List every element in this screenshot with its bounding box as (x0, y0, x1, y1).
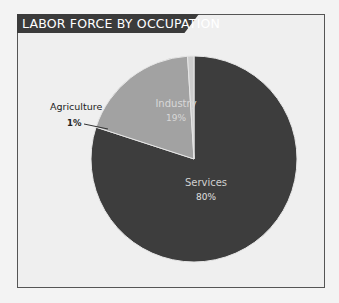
industry-label: Industry (155, 98, 196, 109)
industry-value: 19% (166, 113, 186, 123)
services-value: 80% (196, 192, 216, 202)
agriculture-value: 1% (67, 118, 82, 128)
agriculture-label: Agriculture (50, 101, 102, 112)
services-label: Services (185, 177, 227, 188)
pie-chart: Industry 19% Services 80% Agriculture 1% (0, 0, 339, 303)
